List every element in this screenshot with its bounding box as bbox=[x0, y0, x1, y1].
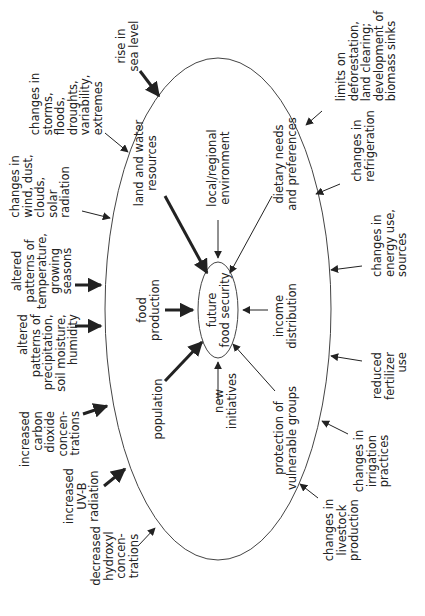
label-hydroxyl: decreased hydroxyl concen- trations bbox=[90, 526, 140, 586]
label-storms: changes in storms, floods, droughts, var… bbox=[29, 73, 104, 135]
label-income: income distribution bbox=[273, 283, 298, 349]
label-temperature: altered patterns of temperature, growing… bbox=[11, 233, 74, 309]
label-vulnerable: protection of vulnerable groups bbox=[273, 386, 298, 490]
label-population: population bbox=[152, 378, 165, 439]
label-dietary: dietary needs and preferences bbox=[273, 117, 298, 211]
label-refrigeration: changes in refrigeration bbox=[351, 110, 376, 182]
label-wind: changes in wind, dust, clouds, solar rad… bbox=[9, 154, 72, 217]
food-security-diagram: future food security land and water reso… bbox=[0, 0, 425, 616]
label-local-env: local/regional environment bbox=[206, 129, 231, 206]
label-deforestation: limits on deforestation, land clearing; … bbox=[335, 11, 398, 102]
label-uvb: increased UV-B radiation bbox=[63, 468, 101, 524]
label-food-production: food production bbox=[136, 279, 161, 341]
label-new-initiatives: new initiatives bbox=[213, 373, 238, 429]
label-livestock: changes in livestock production bbox=[323, 499, 361, 561]
label-land-water: land and water resources bbox=[133, 120, 158, 207]
label-sea-level: rise in sea level bbox=[115, 20, 140, 71]
label-precipitation: altered patterns of precipitation, soil … bbox=[17, 314, 80, 392]
label-fertilizer: reduced fertilizer use bbox=[371, 352, 409, 400]
label-irrigation: changes in irrigation practices bbox=[353, 430, 391, 492]
label-energy: changes in energy use, sources bbox=[371, 209, 409, 277]
center-label: future food security bbox=[206, 273, 231, 348]
label-co2: increased carbon dioxide concen- tration… bbox=[19, 411, 82, 467]
